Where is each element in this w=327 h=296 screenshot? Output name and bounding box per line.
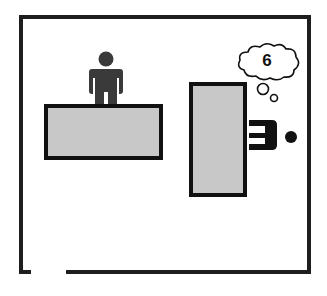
thought-bubble-icon	[234, 40, 304, 106]
wall-bottom-right	[66, 270, 311, 274]
thought-bubble-text: 6	[255, 51, 279, 71]
front-desk	[44, 104, 163, 160]
wall-left	[19, 15, 23, 274]
wall-right	[307, 15, 311, 274]
standing-person-icon	[83, 50, 129, 108]
door-gap	[31, 268, 66, 276]
wall-bottom-left	[19, 270, 31, 274]
wall-top	[19, 15, 311, 19]
seated-person-icon	[246, 118, 298, 152]
